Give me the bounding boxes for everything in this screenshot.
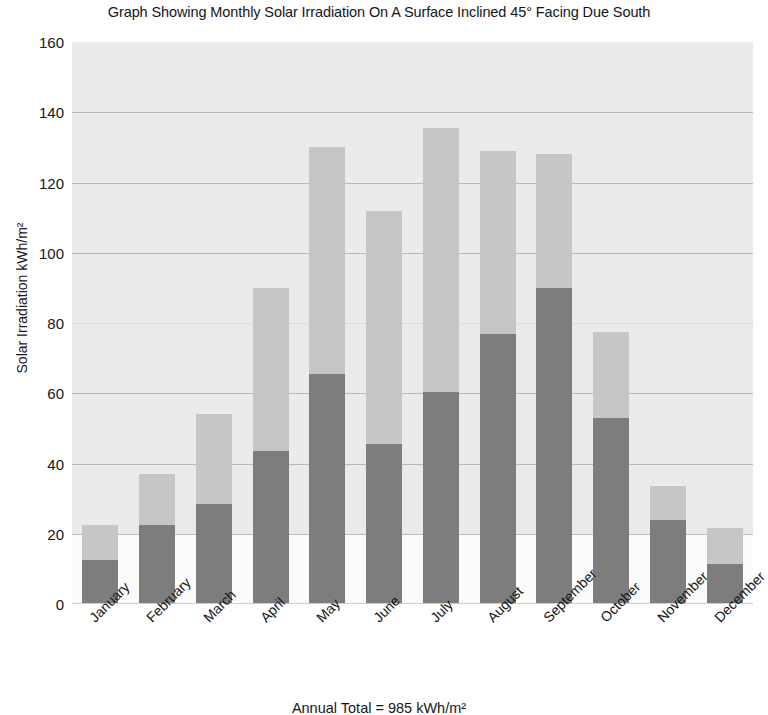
bar-segment-diffuse[interactable] — [82, 525, 118, 560]
chart-title: Graph Showing Monthly Solar Irradiation … — [0, 2, 758, 22]
y-axis-tick-label: 80 — [2, 316, 64, 331]
bar-group[interactable] — [480, 151, 516, 604]
bar-segment-direct[interactable] — [253, 451, 289, 604]
bar-segment-diffuse[interactable] — [707, 528, 743, 563]
bar-segment-diffuse[interactable] — [366, 211, 402, 445]
bar-segment-diffuse[interactable] — [423, 128, 459, 391]
bar-segment-diffuse[interactable] — [536, 154, 572, 287]
bar-segment-direct[interactable] — [480, 334, 516, 604]
y-axis-tick-label: 140 — [2, 105, 64, 120]
bar-segment-diffuse[interactable] — [593, 332, 629, 418]
bar-group[interactable] — [253, 288, 289, 604]
bar-group[interactable] — [309, 147, 345, 604]
bar-group[interactable] — [366, 211, 402, 604]
y-axis-tick-label: 60 — [2, 386, 64, 401]
y-axis-tick-label: 100 — [2, 245, 64, 260]
bar-segment-diffuse[interactable] — [253, 288, 289, 451]
bar-segment-direct[interactable] — [536, 288, 572, 604]
plot-area — [72, 42, 753, 604]
bar-group[interactable] — [196, 414, 232, 604]
bar-segment-diffuse[interactable] — [139, 474, 175, 525]
annual-total-annotation: Annual Total = 985 kWh/m² — [0, 700, 758, 715]
gridline — [72, 253, 753, 254]
bar-group[interactable] — [423, 128, 459, 604]
gridline — [72, 393, 753, 394]
y-axis-tick-label: 40 — [2, 456, 64, 471]
gridline — [72, 183, 753, 184]
y-axis-tick-label: 120 — [2, 175, 64, 190]
bar-segment-direct[interactable] — [366, 444, 402, 604]
bar-group[interactable] — [536, 154, 572, 604]
bar-segment-direct[interactable] — [309, 374, 345, 604]
bar-segment-diffuse[interactable] — [650, 486, 686, 519]
gridline — [72, 112, 753, 113]
y-axis-tick-label: 20 — [2, 526, 64, 541]
y-axis-tick-label: 160 — [2, 35, 64, 50]
bar-segment-diffuse[interactable] — [309, 147, 345, 374]
bar-group[interactable] — [139, 474, 175, 604]
bar-segment-direct[interactable] — [423, 392, 459, 605]
bar-segment-diffuse[interactable] — [480, 151, 516, 334]
gridline — [72, 323, 753, 324]
x-axis-tick-labels: JanuaryFebruaryMarchAprilMayJuneJulyAugu… — [0, 604, 758, 694]
bar-segment-diffuse[interactable] — [196, 414, 232, 504]
bar-group[interactable] — [593, 332, 629, 604]
gridline — [72, 464, 753, 465]
